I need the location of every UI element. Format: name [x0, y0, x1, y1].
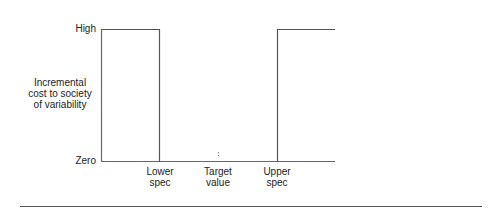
y-axis-label-line-2: cost to society [18, 88, 102, 99]
cost-curve-right [278, 30, 336, 162]
y-axis-label-line-1: Incremental [18, 77, 102, 88]
x-tick-lower-line-2: spec [139, 177, 181, 188]
y-axis-label-line-3: of variability [18, 99, 102, 110]
x-tick-target-value: Target value [197, 166, 239, 188]
y-axis-label: Incremental cost to society of variabili… [18, 77, 102, 110]
y-tick-high: High [56, 23, 96, 34]
y-tick-zero: Zero [56, 155, 96, 166]
x-tick-lower-line-1: Lower [139, 166, 181, 177]
x-tick-upper-line-2: spec [256, 177, 298, 188]
cost-curve-left [102, 30, 160, 162]
x-tick-upper-line-1: Upper [256, 166, 298, 177]
x-tick-upper-spec: Upper spec [256, 166, 298, 188]
x-tick-target-line-1: Target [197, 166, 239, 177]
x-tick-target-line-2: value [197, 177, 239, 188]
x-tick-lower-spec: Lower spec [139, 166, 181, 188]
